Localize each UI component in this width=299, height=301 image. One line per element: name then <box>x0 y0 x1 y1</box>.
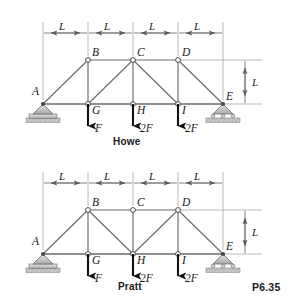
joint-label-G: G <box>92 104 101 116</box>
roller-support-E <box>206 102 240 123</box>
howe-dim-label-2: L <box>103 20 110 32</box>
problem-number-label: P6.35 <box>252 281 280 293</box>
joint-label-C: C <box>137 46 145 58</box>
load-label-G: F <box>94 122 103 134</box>
member-D-H <box>133 210 178 254</box>
joint-B <box>86 58 91 63</box>
pratt-dim-label-1: L <box>58 170 65 182</box>
pratt-members <box>43 210 223 254</box>
joint-label-G: G <box>92 254 101 266</box>
howe-members <box>43 60 223 104</box>
joint-label-E: E <box>225 240 233 252</box>
howe-dim-label-3: L <box>148 20 155 32</box>
figure-page: L L L L L <box>0 0 299 301</box>
member-C-I <box>133 60 178 104</box>
joint-label-A: A <box>31 85 40 97</box>
howe-span-dimension-labels: L L L L <box>58 20 200 32</box>
member-D-E <box>178 60 223 104</box>
joint-label-A: A <box>31 235 40 247</box>
joint-label-E: E <box>225 90 233 102</box>
load-label-I: 2F <box>185 122 199 134</box>
howe-caption: Howe <box>113 136 140 147</box>
pin-support-A <box>26 252 60 273</box>
joint-B <box>86 208 91 213</box>
load-label-G: F <box>94 272 103 284</box>
joint-label-B: B <box>92 46 99 58</box>
howe-load-labels: F 2F 2F <box>94 122 199 134</box>
member-A-B <box>43 60 88 104</box>
pratt-dim-label-4: L <box>193 170 200 182</box>
joint-label-H: H <box>136 254 146 266</box>
roller-support-E <box>206 252 240 273</box>
pin-support-A <box>26 102 60 123</box>
pratt-dim-label-2: L <box>103 170 110 182</box>
howe-truss-diagram: L L L L L <box>0 0 299 150</box>
member-C-G <box>88 60 133 104</box>
member-B-H <box>88 210 133 254</box>
member-A-B <box>43 210 88 254</box>
pratt-dim-label-3: L <box>148 170 155 182</box>
howe-height-label: L <box>251 76 258 88</box>
load-label-H: 2F <box>140 272 154 284</box>
pratt-span-dimension-labels: L L L L <box>58 170 200 182</box>
howe-dim-label-1: L <box>58 20 65 32</box>
member-D-E <box>178 210 223 254</box>
pratt-caption: Pratt <box>118 281 142 292</box>
joint-D <box>176 208 181 213</box>
howe-dim-label-4: L <box>193 20 200 32</box>
joint-label-C: C <box>137 196 145 208</box>
joint-label-B: B <box>92 196 99 208</box>
load-label-I: 2F <box>185 272 199 284</box>
joint-C <box>131 208 136 213</box>
joint-C <box>131 58 136 63</box>
joint-label-D: D <box>181 46 191 58</box>
joint-label-D: D <box>181 196 191 208</box>
load-label-H: 2F <box>140 122 154 134</box>
pratt-truss-diagram: L L L L L <box>0 150 299 300</box>
joint-D <box>176 58 181 63</box>
joint-label-H: H <box>136 104 146 116</box>
joint-label-I: I <box>181 254 187 266</box>
pratt-height-label: L <box>251 226 258 238</box>
pratt-load-labels: F 2F 2F <box>94 272 199 284</box>
joint-label-I: I <box>181 104 187 116</box>
